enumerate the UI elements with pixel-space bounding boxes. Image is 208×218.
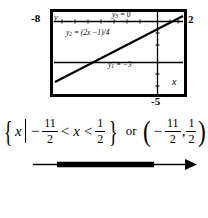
y3-rhs: = 0 xyxy=(120,10,131,19)
interval-left-fraction: 11 2 xyxy=(165,117,181,145)
such-that-bar xyxy=(25,119,26,143)
number-line-panel: ( ) − 11 2 1 2 xyxy=(0,152,208,218)
interval-separator: , xyxy=(182,123,186,140)
relation-less-than-1: < xyxy=(61,123,69,140)
interval-right-denominator: 2 xyxy=(186,133,196,146)
y1-rhs: = −3 xyxy=(116,60,132,69)
graph-x-axis-name-label: x xyxy=(172,77,176,87)
number-line-arrowhead-right xyxy=(185,159,197,170)
graphing-calculator-panel: -8 y 2 -5 x y3 = 0 y2 = (2x −1)/4 y1 = −… xyxy=(0,0,208,108)
interval-left-denominator: 2 xyxy=(168,133,178,146)
graph-xmin-label: -8 xyxy=(31,13,40,24)
lower-bound-fraction: 11 2 xyxy=(42,117,58,145)
equation-label-y3: y3 = 0 xyxy=(112,11,131,20)
interval-right-fraction: 1 2 xyxy=(186,117,196,145)
y1-subscript: 1 xyxy=(111,63,114,69)
lower-bound-denominator: 2 xyxy=(45,133,55,146)
graph-ymin-label: -5 xyxy=(151,96,160,107)
graph-y-axis-name-label: y xyxy=(54,14,58,22)
graph-xmax-label: 2 xyxy=(188,14,194,25)
y3-subscript: 3 xyxy=(115,13,118,19)
conjunction-or: or xyxy=(126,123,137,139)
interval-open-paren: ( xyxy=(143,119,151,143)
interval-left-sign: − xyxy=(154,123,162,140)
equation-label-y2: y2 = (2x −1)/4 xyxy=(66,29,109,38)
upper-bound-denominator: 2 xyxy=(95,133,105,146)
open-brace: { xyxy=(3,119,12,143)
interval-left-numerator: 11 xyxy=(165,117,181,130)
number-line-canvas xyxy=(0,152,208,218)
interval-right-numerator: 1 xyxy=(186,117,196,130)
interval-close-paren: ) xyxy=(198,119,206,143)
relation-less-than-2: < xyxy=(84,123,92,140)
upper-bound-numerator: 1 xyxy=(95,117,105,130)
upper-bound-fraction: 1 2 xyxy=(95,117,105,145)
y2-rhs: = (2x −1)/4 xyxy=(74,28,110,37)
set-builder-notation: { x − 11 2 < x < 1 2 } xyxy=(1,117,121,145)
set-variable: x xyxy=(15,123,22,140)
solution-expression: { x − 11 2 < x < 1 2 } or ( − 11 2 , 1 xyxy=(0,108,208,154)
lower-bound-sign: − xyxy=(31,123,39,140)
calculator-screen-border xyxy=(52,11,186,96)
interval-notation: ( − 11 2 , 1 2 ) xyxy=(142,117,208,145)
lower-bound-numerator: 11 xyxy=(42,117,58,130)
close-brace: } xyxy=(109,119,118,143)
inner-variable: x xyxy=(73,123,80,140)
equation-label-y1: y1 = −3 xyxy=(108,61,132,70)
y2-subscript: 2 xyxy=(69,31,72,37)
